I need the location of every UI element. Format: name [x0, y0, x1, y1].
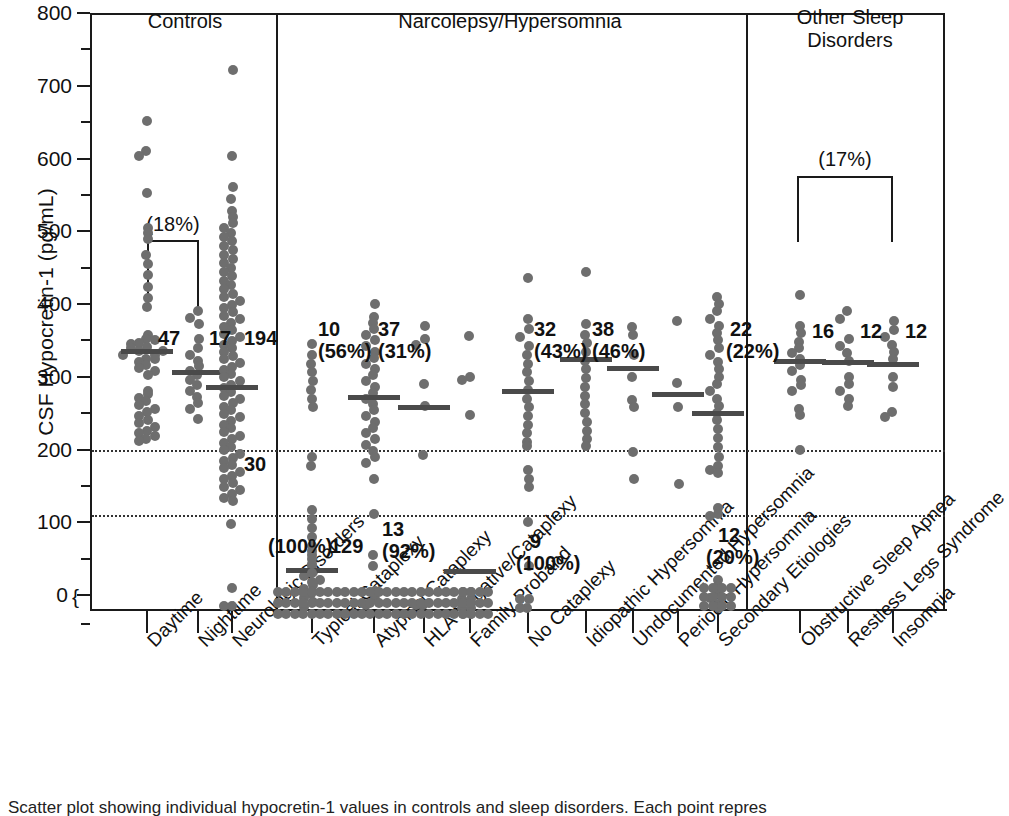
mean-bar — [502, 389, 554, 394]
data-point — [787, 366, 797, 376]
data-point — [420, 321, 430, 331]
data-point — [522, 441, 532, 451]
data-point — [143, 270, 153, 280]
data-point — [150, 354, 160, 364]
controls-bracket-label: (18%) — [122, 213, 224, 236]
data-point — [219, 601, 229, 611]
data-point — [193, 343, 203, 353]
data-point — [228, 496, 238, 506]
y-tick-label-100: 100 — [14, 511, 72, 532]
data-point — [835, 314, 845, 324]
y-tick-200 — [77, 449, 90, 451]
y-tick-label-500: 500 — [14, 220, 72, 241]
y-tick-500 — [77, 230, 90, 232]
data-point — [142, 302, 152, 312]
controls-bracket — [147, 240, 199, 308]
annot-nocataplexy-pct-top: (43%) — [534, 340, 587, 362]
y-tick-600 — [77, 158, 90, 160]
data-point — [705, 314, 715, 324]
data-point — [193, 414, 203, 424]
y-tick-label-400: 400 — [14, 293, 72, 314]
data-point — [457, 375, 467, 385]
annot-atypical-n-bottom: 13 — [382, 518, 404, 540]
data-point — [713, 468, 723, 478]
annot-rls-n: 12 — [860, 320, 882, 342]
y-tick-label-800: 800 — [14, 2, 72, 23]
data-point — [226, 519, 236, 529]
data-point — [466, 609, 476, 619]
figure-caption: Scatter plot showing individual hypocret… — [8, 798, 948, 816]
y-minor-tick-650 — [81, 121, 90, 123]
mean-bar — [444, 569, 496, 574]
data-point — [726, 601, 736, 611]
y-minor-tick-450 — [81, 267, 90, 269]
data-point — [143, 234, 153, 244]
y-zero-brace: { — [72, 585, 79, 609]
data-point — [523, 273, 533, 283]
y-tick-label-600: 600 — [14, 148, 72, 169]
mean-bar — [867, 362, 919, 367]
annot-atypical-pct-top: (31%) — [378, 340, 431, 362]
y-minor-tick-250 — [81, 412, 90, 414]
data-point — [581, 267, 591, 277]
annot-secondary-pct-top: (22%) — [726, 340, 779, 362]
y-minor-tick-150 — [81, 485, 90, 487]
data-point — [369, 474, 379, 484]
y-minor-tick-50 — [81, 558, 90, 560]
data-point — [228, 182, 238, 192]
annot-idiopathic-pct: (46%) — [592, 340, 645, 362]
y-tick-800 — [77, 12, 90, 14]
annot-secondary-n-top: 22 — [730, 318, 752, 340]
annot-typical-pct-top: (56%) — [318, 340, 371, 362]
annot-secondary-n-bottom: 12 — [718, 524, 740, 546]
mean-bar — [348, 395, 400, 400]
annot-neurologic-n: 194 — [244, 327, 277, 349]
data-point — [134, 436, 144, 446]
mean-bar — [121, 349, 173, 354]
data-point — [714, 343, 724, 353]
section-title-other-line2: Disorders — [755, 29, 945, 52]
annot-neurologic-secondary: 30 — [244, 453, 266, 475]
y-minor-tick-550 — [81, 194, 90, 196]
annot-atypical-n-top: 37 — [378, 318, 400, 340]
section-title-controls: Controls — [95, 10, 275, 33]
data-point — [672, 378, 682, 388]
mean-bar — [172, 370, 224, 375]
annot-insomnia-n: 12 — [905, 320, 927, 342]
section-divider-controls — [276, 13, 278, 610]
y-tick-100 — [77, 521, 90, 523]
other-bracket-label: (17%) — [794, 148, 896, 171]
other-bracket — [797, 176, 893, 242]
y-minor-tick--50 — [81, 623, 90, 625]
section-title-other-line1: Other Sleep — [755, 6, 945, 29]
data-point — [628, 330, 638, 340]
mean-bar — [607, 366, 659, 371]
mean-bar — [652, 392, 704, 397]
data-point — [306, 461, 316, 471]
data-point — [219, 391, 229, 401]
annot-nocataplexy-n-top: 32 — [534, 318, 556, 340]
data-point — [361, 458, 371, 468]
mean-bar — [692, 411, 744, 416]
annot-nighttime-n: 17 — [209, 327, 231, 349]
annot-atypical-pct-bottom: (92%) — [382, 540, 435, 562]
data-point — [228, 218, 238, 228]
data-point — [795, 445, 805, 455]
y-tick-label-300: 300 — [14, 366, 72, 387]
data-point — [524, 324, 534, 334]
data-point — [523, 314, 533, 324]
annot-typical-pct-bottom: (100%) — [268, 535, 332, 557]
data-point — [143, 370, 153, 380]
y-tick-label-700: 700 — [14, 75, 72, 96]
section-title-narcolepsy: Narcolepsy/Hypersomnia — [330, 10, 690, 33]
y-minor-tick-350 — [81, 339, 90, 341]
annot-nocataplexy-n-bottom: 9 — [530, 530, 541, 552]
mean-bar — [774, 359, 826, 364]
annot-nocataplexy-pct-bot: (100%) — [516, 552, 580, 574]
annot-osa-n: 16 — [812, 320, 834, 342]
data-point — [227, 583, 237, 593]
annot-idiopathic-n: 38 — [592, 318, 614, 340]
data-point — [843, 401, 853, 411]
y-minor-tick-750 — [81, 48, 90, 50]
data-point — [581, 441, 591, 451]
